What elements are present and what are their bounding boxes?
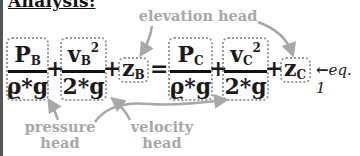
annotation-arrows (0, 0, 360, 156)
